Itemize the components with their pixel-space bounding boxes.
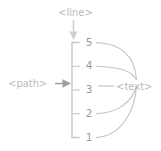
tick-label-2: 2 [86,107,93,119]
tick-label-3: 3 [86,83,93,95]
tick-label-1: 1 [86,131,93,143]
axis-tick-labels: 5 4 3 2 1 [86,36,93,143]
tick-label-4: 4 [86,59,93,71]
path-annotation-label: <path> [8,78,48,89]
axis-tick-marks [72,43,80,138]
tick-label-5: 5 [86,36,93,48]
text-leader-curve-from-4 [96,66,137,80]
axis-group: 5 4 3 2 1 [72,36,93,143]
path-annotation-arrowhead-icon [63,79,72,88]
svg-annotation-diagram: <line> <path> 5 4 3 [0,0,161,151]
line-annotation-arrowhead-icon [70,32,78,41]
text-leader-curve-from-1 [96,86,137,138]
text-leader-curve-from-5 [96,43,137,81]
diagram-canvas: <line> <path> 5 4 3 [0,0,161,151]
path-annotation-group: <path> [8,78,71,89]
text-annotation-label: <text> [116,81,153,92]
line-annotation-label: <line> [58,7,93,18]
